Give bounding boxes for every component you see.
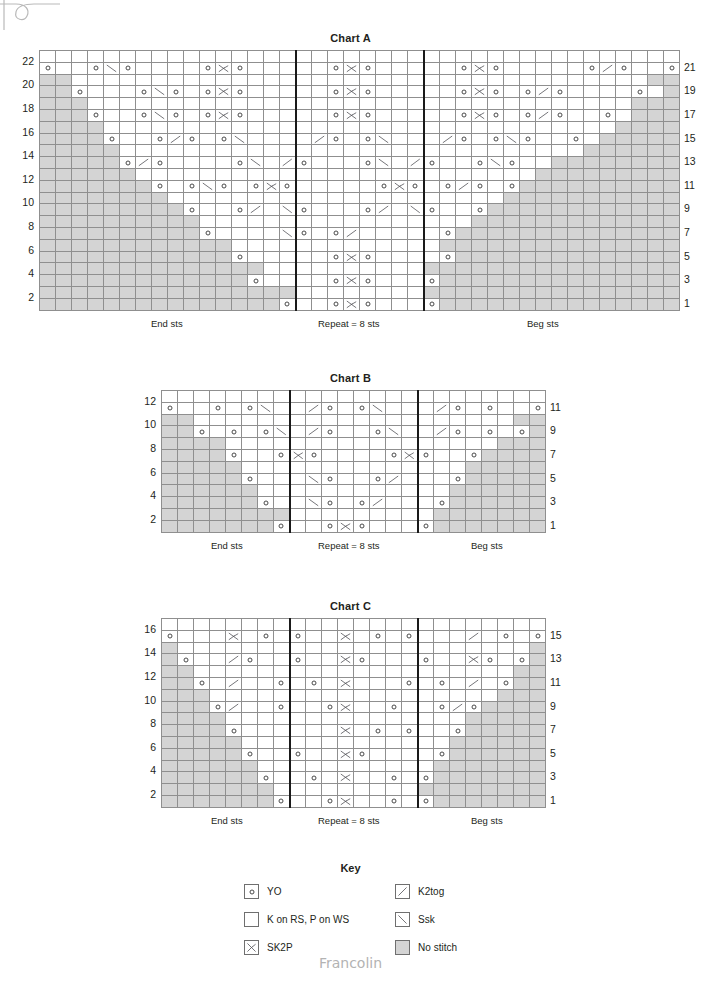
no-stitch-cell[interactable]: [104, 239, 120, 251]
no-stitch-cell[interactable]: [72, 192, 88, 204]
no-stitch-cell[interactable]: [466, 795, 482, 807]
knit-cell[interactable]: [168, 192, 184, 204]
knit-cell[interactable]: [466, 438, 482, 450]
knit-cell[interactable]: [232, 216, 248, 228]
yo-cell[interactable]: [274, 677, 290, 689]
no-stitch-cell[interactable]: [530, 772, 546, 784]
no-stitch-cell[interactable]: [514, 473, 530, 485]
no-stitch-cell[interactable]: [72, 298, 88, 310]
knit-cell[interactable]: [530, 391, 546, 403]
yo-cell[interactable]: [258, 630, 274, 642]
yo-cell[interactable]: [226, 449, 242, 461]
no-stitch-cell[interactable]: [482, 760, 498, 772]
knit-cell[interactable]: [338, 666, 354, 678]
no-stitch-cell[interactable]: [514, 520, 530, 532]
knit-cell[interactable]: [370, 772, 386, 784]
no-stitch-cell[interactable]: [450, 485, 466, 497]
no-stitch-cell[interactable]: [120, 168, 136, 180]
sk2p-cell[interactable]: [264, 180, 280, 192]
no-stitch-cell[interactable]: [466, 748, 482, 760]
knit-cell[interactable]: [306, 642, 322, 654]
knit-cell[interactable]: [418, 438, 434, 450]
knit-cell[interactable]: [290, 520, 306, 532]
no-stitch-cell[interactable]: [632, 263, 648, 275]
knit-cell[interactable]: [392, 98, 408, 110]
no-stitch-cell[interactable]: [514, 689, 530, 701]
knit-cell[interactable]: [290, 485, 306, 497]
knit-cell[interactable]: [312, 298, 328, 310]
knit-cell[interactable]: [440, 86, 456, 98]
knit-cell[interactable]: [242, 461, 258, 473]
no-stitch-cell[interactable]: [482, 449, 498, 461]
k2tog-cell[interactable]: [466, 630, 482, 642]
no-stitch-cell[interactable]: [162, 677, 178, 689]
knit-cell[interactable]: [200, 98, 216, 110]
knit-cell[interactable]: [152, 168, 168, 180]
no-stitch-cell[interactable]: [568, 157, 584, 169]
knit-cell[interactable]: [370, 701, 386, 713]
no-stitch-cell[interactable]: [552, 275, 568, 287]
knit-cell[interactable]: [498, 619, 514, 631]
knit-cell[interactable]: [370, 748, 386, 760]
no-stitch-cell[interactable]: [632, 275, 648, 287]
no-stitch-cell[interactable]: [136, 192, 152, 204]
sk2p-cell[interactable]: [338, 748, 354, 760]
yo-cell[interactable]: [424, 298, 440, 310]
knit-cell[interactable]: [440, 121, 456, 133]
no-stitch-cell[interactable]: [194, 725, 210, 737]
sk2p-cell[interactable]: [344, 109, 360, 121]
no-stitch-cell[interactable]: [440, 239, 456, 251]
no-stitch-cell[interactable]: [226, 497, 242, 509]
yo-cell[interactable]: [488, 62, 504, 74]
knit-cell[interactable]: [376, 86, 392, 98]
yo-cell[interactable]: [370, 630, 386, 642]
knit-cell[interactable]: [440, 145, 456, 157]
knit-cell[interactable]: [248, 109, 264, 121]
no-stitch-cell[interactable]: [664, 98, 680, 110]
no-stitch-cell[interactable]: [168, 275, 184, 287]
knit-cell[interactable]: [290, 772, 306, 784]
knit-cell[interactable]: [258, 748, 274, 760]
knit-cell[interactable]: [354, 736, 370, 748]
no-stitch-cell[interactable]: [152, 286, 168, 298]
no-stitch-cell[interactable]: [504, 263, 520, 275]
knit-cell[interactable]: [210, 677, 226, 689]
knit-cell[interactable]: [424, 239, 440, 251]
no-stitch-cell[interactable]: [520, 227, 536, 239]
no-stitch-cell[interactable]: [168, 216, 184, 228]
knit-cell[interactable]: [424, 62, 440, 74]
knit-cell[interactable]: [242, 449, 258, 461]
knit-cell[interactable]: [552, 51, 568, 63]
yo-cell[interactable]: [360, 109, 376, 121]
k2tog-cell[interactable]: [536, 86, 552, 98]
knit-cell[interactable]: [290, 414, 306, 426]
yo-cell[interactable]: [450, 426, 466, 438]
yo-cell[interactable]: [136, 86, 152, 98]
no-stitch-cell[interactable]: [424, 286, 440, 298]
no-stitch-cell[interactable]: [194, 784, 210, 796]
no-stitch-cell[interactable]: [194, 473, 210, 485]
knit-cell[interactable]: [322, 438, 338, 450]
knit-cell[interactable]: [376, 239, 392, 251]
no-stitch-cell[interactable]: [226, 760, 242, 772]
ssk-cell[interactable]: [248, 157, 264, 169]
no-stitch-cell[interactable]: [162, 461, 178, 473]
knit-cell[interactable]: [274, 485, 290, 497]
no-stitch-cell[interactable]: [600, 263, 616, 275]
sk2p-cell[interactable]: [338, 677, 354, 689]
knit-cell[interactable]: [344, 180, 360, 192]
yo-cell[interactable]: [296, 227, 312, 239]
knit-cell[interactable]: [210, 642, 226, 654]
no-stitch-cell[interactable]: [466, 784, 482, 796]
yo-cell[interactable]: [418, 449, 434, 461]
no-stitch-cell[interactable]: [242, 485, 258, 497]
no-stitch-cell[interactable]: [632, 145, 648, 157]
no-stitch-cell[interactable]: [616, 192, 632, 204]
knit-cell[interactable]: [482, 619, 498, 631]
no-stitch-cell[interactable]: [104, 180, 120, 192]
no-stitch-cell[interactable]: [136, 275, 152, 287]
knit-cell[interactable]: [408, 74, 424, 86]
knit-cell[interactable]: [456, 216, 472, 228]
no-stitch-cell[interactable]: [616, 227, 632, 239]
k2tog-cell[interactable]: [376, 204, 392, 216]
